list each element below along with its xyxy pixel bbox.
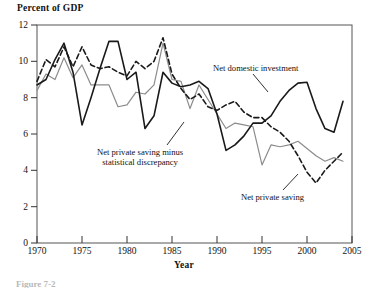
y-tick-label-8: 8	[12, 93, 28, 103]
leader-line-net-private-saving	[283, 174, 298, 190]
x-tick-label-1990: 1990	[200, 246, 234, 256]
leader-line-net-domestic-investment	[253, 74, 268, 92]
series-net-private-saving-minus-statistical-discrepancy	[37, 43, 343, 165]
plot-frame	[37, 25, 352, 243]
annotation-line-1: Net private saving minus	[97, 147, 183, 157]
y-tick-label-6: 6	[12, 129, 28, 139]
series-net-domestic-investment	[37, 41, 343, 150]
x-tick-label-2005: 2005	[335, 246, 368, 256]
y-tick-label-2: 2	[12, 202, 28, 212]
y-tick-label-4: 4	[12, 165, 28, 175]
x-axis-title: Year	[0, 260, 368, 270]
series-net-private-saving	[37, 38, 343, 183]
x-tick-label-2000: 2000	[290, 246, 324, 256]
x-tick-label-1975: 1975	[65, 246, 99, 256]
annotation-net-private-saving: Net private saving	[241, 192, 304, 202]
y-tick-label-12: 12	[8, 20, 28, 30]
x-tick-label-1995: 1995	[245, 246, 279, 256]
figure-container: Percent of GDP	[0, 0, 368, 290]
annotation-line-2: statistical discrepancy	[97, 157, 183, 167]
figure-caption-stub: Figure 7-2	[16, 279, 56, 288]
annotation-net-domestic-investment: Net domestic investment	[213, 63, 298, 73]
annotation-net-private-saving-minus-statistical-discrepancy: Net private saving minus statistical dis…	[97, 147, 183, 167]
x-tick-label-1985: 1985	[155, 246, 189, 256]
y-axis-ticks	[31, 25, 37, 243]
leader-line-net-private-saving-minus-statistical-discrepancy	[167, 122, 184, 145]
x-tick-label-1980: 1980	[110, 246, 144, 256]
annotation-leader-lines	[167, 74, 298, 190]
x-tick-label-1970: 1970	[20, 246, 54, 256]
x-axis-ticks	[37, 236, 352, 243]
y-tick-label-10: 10	[8, 56, 28, 66]
